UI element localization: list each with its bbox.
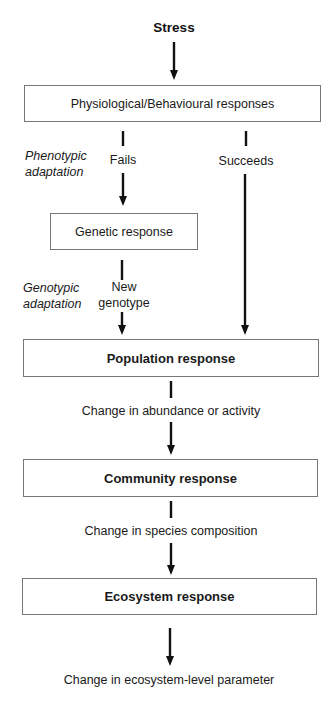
genotypic-line1: Genotypic — [23, 280, 81, 296]
abundance-change-label: Change in abundance or activity — [82, 403, 261, 419]
ecosystem-parameter-label: Change in ecosystem-level parameter — [64, 672, 275, 688]
phenotypic-adaptation-label: Phenotypic adaptation — [25, 148, 87, 180]
community-response-box: Community response — [23, 459, 318, 497]
phenotypic-line2: adaptation — [25, 164, 87, 180]
ecosystem-response-label: Ecosystem response — [104, 589, 234, 604]
physiological-response-label: Physiological/Behavioural responses — [71, 97, 275, 111]
new-genotype-line1: New — [98, 279, 149, 295]
ecosystem-response-box: Ecosystem response — [22, 578, 317, 615]
genotypic-line2: adaptation — [23, 296, 81, 312]
genetic-response-label: Genetic response — [75, 225, 173, 239]
species-composition-label: Change in species composition — [84, 523, 257, 539]
fails-label: Fails — [110, 152, 136, 168]
new-genotype-line2: genotype — [98, 295, 149, 311]
succeeds-label: Succeeds — [219, 153, 274, 169]
phenotypic-line1: Phenotypic — [25, 148, 87, 164]
genetic-response-box: Genetic response — [50, 213, 198, 250]
community-response-label: Community response — [104, 471, 237, 486]
genotypic-adaptation-label: Genotypic adaptation — [23, 280, 81, 312]
population-response-box: Population response — [23, 339, 319, 377]
physiological-response-box: Physiological/Behavioural responses — [24, 85, 321, 122]
population-response-label: Population response — [107, 351, 236, 366]
stress-label: Stress — [153, 20, 194, 35]
new-genotype-label: New genotype — [98, 279, 149, 311]
